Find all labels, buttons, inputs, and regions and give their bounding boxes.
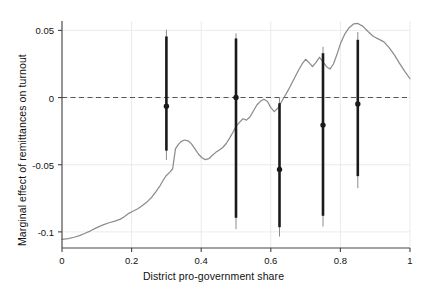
- chart-figure: Marginal effect of remittances on turnou…: [0, 0, 427, 295]
- x-tick-label: 0: [59, 255, 64, 266]
- error-bar-point-estimate: [355, 101, 360, 106]
- error-bar-point-estimate: [320, 122, 325, 127]
- y-tick-label: -0.1: [14, 226, 54, 237]
- x-tick-label: 0.4: [195, 255, 208, 266]
- y-tick-label: 0.05: [14, 25, 54, 36]
- error-bar-point-estimate: [277, 167, 282, 172]
- y-tick-label: 0: [14, 92, 54, 103]
- error-bar-point-estimate: [164, 104, 169, 109]
- x-tick-label: 0.6: [264, 255, 277, 266]
- x-axis-title: District pro-government share: [0, 270, 427, 282]
- y-tick-label: -0.05: [14, 159, 54, 170]
- y-axis-title: Marginal effect of remittances on turnou…: [16, 54, 28, 246]
- error-bar-point-estimate: [233, 95, 238, 100]
- x-tick-label: 1: [407, 255, 412, 266]
- x-tick-label: 0.2: [125, 255, 138, 266]
- plot-canvas: [0, 0, 427, 295]
- x-tick-label: 0.8: [334, 255, 347, 266]
